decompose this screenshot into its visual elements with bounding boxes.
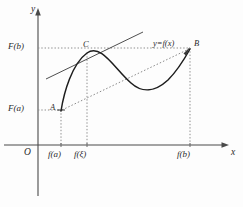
x-axis-label: x xyxy=(231,148,235,158)
point-label-b: B xyxy=(194,39,199,48)
function-graph-figure: y x O F(b) F(a) f(a) f(ξ) f(b) A C B y=f… xyxy=(0,0,243,207)
y-tick-label-fa: F(a) xyxy=(8,104,24,113)
tangent-line-at-c xyxy=(46,32,143,79)
graph-canvas xyxy=(0,0,243,207)
curve-equation-label: y=f(x) xyxy=(153,39,174,48)
y-tick-label-fb: F(b) xyxy=(8,42,24,51)
x-tick-label-fxi: f(ξ) xyxy=(74,150,86,159)
x-tick-label-fb: f(b) xyxy=(177,150,190,159)
origin-label: O xyxy=(24,148,31,158)
x-tick-label-fa: f(a) xyxy=(48,150,61,159)
y-axis-label: y xyxy=(31,5,35,15)
y-axis xyxy=(35,8,41,196)
point-label-c: C xyxy=(83,40,89,49)
point-label-a: A xyxy=(50,103,55,112)
